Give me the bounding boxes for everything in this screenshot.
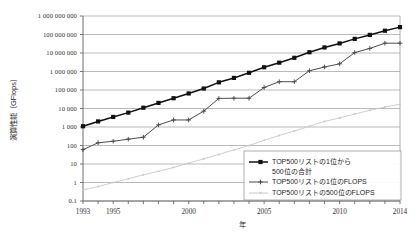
legend-marker bbox=[258, 160, 262, 164]
data-point-marker bbox=[338, 41, 342, 45]
x-axis-tick-labels: 199319952000200520102014 bbox=[76, 208, 408, 216]
data-point-marker bbox=[157, 170, 159, 172]
y-tick-label: 100 bbox=[67, 142, 78, 149]
x-tick-label: 2005 bbox=[257, 208, 272, 216]
legend-label: 500位の合計 bbox=[272, 167, 312, 176]
chart-legend: TOP500リストの1位から500位の合計TOP500リストの1位のFLOPST… bbox=[244, 151, 401, 200]
y-tick-label: 10 bbox=[70, 160, 77, 167]
x-tick-label: 1993 bbox=[76, 208, 91, 216]
data-point-marker bbox=[156, 101, 160, 105]
y-tick-label: 10 000 000 bbox=[46, 49, 77, 56]
x-axis-title-text: 年 bbox=[239, 220, 247, 229]
data-point-marker bbox=[171, 96, 175, 100]
y-tick-label: 100 000 000 bbox=[43, 31, 78, 38]
data-point-marker bbox=[278, 134, 280, 136]
computational-performance-log-chart: 1 000 000 000100 000 00010 000 0001 000 … bbox=[0, 0, 420, 242]
data-point-marker bbox=[202, 86, 206, 90]
chart-figure: 1 000 000 000100 000 00010 000 0001 000 … bbox=[0, 0, 420, 242]
data-point-marker bbox=[277, 61, 281, 65]
data-point-marker bbox=[293, 130, 295, 132]
y-tick-label: 10 000 bbox=[58, 105, 77, 112]
y-axis-title-text: 演算性能〔GFlops〕 bbox=[9, 75, 18, 141]
data-point-marker bbox=[262, 65, 266, 69]
data-point-marker bbox=[398, 25, 402, 29]
legend-marker bbox=[260, 192, 262, 194]
data-point-marker bbox=[111, 115, 115, 119]
data-point-marker bbox=[247, 71, 251, 75]
data-point-marker bbox=[96, 119, 100, 123]
data-point-marker bbox=[173, 166, 175, 168]
legend-label: TOP500リストの1位のFLOPS bbox=[272, 177, 367, 185]
x-tick-label: 2014 bbox=[393, 208, 408, 216]
legend-label: TOP500リストの500位のFLOPS bbox=[272, 188, 375, 196]
data-point-marker bbox=[82, 189, 84, 191]
data-point-marker bbox=[354, 113, 356, 115]
data-point-marker bbox=[218, 153, 220, 155]
data-point-marker bbox=[232, 76, 236, 80]
data-point-marker bbox=[399, 103, 401, 105]
data-point-marker bbox=[368, 33, 372, 37]
y-axis-tick-labels: 1 000 000 000100 000 00010 000 0001 000 … bbox=[38, 12, 78, 204]
y-tick-label: 1 000 000 000 bbox=[38, 12, 78, 19]
legend-label: TOP500リストの1位から bbox=[272, 157, 351, 166]
data-point-marker bbox=[188, 162, 190, 164]
data-point-marker bbox=[141, 106, 145, 110]
data-point-marker bbox=[263, 139, 265, 141]
data-point-marker bbox=[292, 56, 296, 60]
x-tick-label: 2010 bbox=[332, 208, 347, 216]
data-point-marker bbox=[217, 80, 221, 84]
data-point-marker bbox=[203, 158, 205, 160]
data-point-marker bbox=[126, 111, 130, 115]
data-point-marker bbox=[322, 45, 326, 49]
y-axis-title: 演算性能〔GFlops〕 bbox=[9, 75, 18, 141]
data-point-marker bbox=[81, 124, 85, 128]
data-point-marker bbox=[308, 125, 310, 127]
data-point-marker bbox=[127, 178, 129, 180]
data-point-marker bbox=[384, 106, 386, 108]
y-tick-label: 1 000 bbox=[62, 123, 78, 130]
y-tick-label: 100 000 bbox=[55, 86, 78, 93]
data-point-marker bbox=[369, 109, 371, 111]
x-tick-label: 1995 bbox=[106, 208, 121, 216]
y-tick-label: 1 000 000 bbox=[50, 68, 78, 75]
data-point-marker bbox=[353, 37, 357, 41]
data-point-marker bbox=[142, 174, 144, 176]
data-point-marker bbox=[307, 50, 311, 54]
data-point-marker bbox=[324, 120, 326, 122]
data-point-marker bbox=[97, 186, 99, 188]
x-tick-label: 2000 bbox=[181, 208, 196, 216]
data-point-marker bbox=[233, 149, 235, 151]
y-tick-label: 0.1 bbox=[68, 197, 77, 204]
data-point-marker bbox=[383, 29, 387, 33]
data-point-marker bbox=[187, 91, 191, 95]
data-point-marker bbox=[339, 117, 341, 119]
y-tick-label: 1 bbox=[74, 179, 77, 186]
data-point-marker bbox=[248, 145, 250, 147]
data-point-marker bbox=[112, 182, 114, 184]
